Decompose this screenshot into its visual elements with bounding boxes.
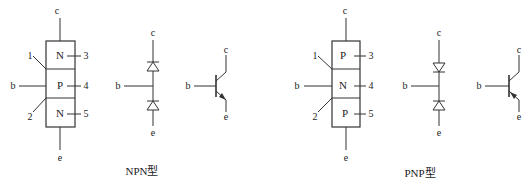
pnp-callout-3: 3 <box>369 50 374 61</box>
npn-callout-4: 4 <box>84 80 89 91</box>
pnp-callout-4: 4 <box>369 80 374 91</box>
npn-diode-emitter-label: e <box>151 127 156 138</box>
npn-caption: NPN型 <box>125 164 158 177</box>
npn-struct-emitter-label: e <box>58 152 63 163</box>
pnp-sym-collector-label: c <box>517 44 522 55</box>
pnp-layer-2: N <box>339 79 347 91</box>
pnp-callout-1: 1 <box>313 50 318 61</box>
npn-group: c N P N e b 1 2 3 4 5 c <box>11 5 229 177</box>
npn-struct-collector-label: c <box>55 5 60 16</box>
npn-callout-3: 3 <box>84 50 89 61</box>
pnp-layer-1: P <box>340 49 346 61</box>
diode-lower-icon <box>147 101 159 110</box>
pnp-callout-2: 2 <box>313 111 318 122</box>
pnp-callout-5: 5 <box>369 108 374 119</box>
pnp-transistor-symbol-icon: b c e <box>477 44 522 122</box>
pnp-layer-structure: c P N P e b 1 2 3 4 5 <box>295 5 374 163</box>
diode-upper-icon <box>433 63 445 72</box>
pnp-struct-base-label: b <box>295 80 300 91</box>
npn-callout-1: 1 <box>28 50 33 61</box>
pnp-group: c P N P e b 1 2 3 4 5 c <box>295 5 522 179</box>
npn-transistor-symbol-icon: b c e <box>186 44 229 122</box>
npn-layer-2: P <box>57 79 63 91</box>
pnp-layer-3: P <box>342 107 348 119</box>
npn-diode-collector-label: c <box>151 27 156 38</box>
npn-layer-structure: c N P N e b 1 2 3 4 5 <box>11 5 89 163</box>
npn-callout-2: 2 <box>28 111 33 122</box>
npn-struct-base-label: b <box>11 80 16 91</box>
pnp-struct-emitter-label: e <box>344 152 349 163</box>
pnp-diode-collector-label: c <box>437 27 442 38</box>
npn-diode-base-label: b <box>116 80 121 91</box>
diode-upper-icon <box>147 62 159 71</box>
pnp-diode-emitter-label: e <box>437 127 442 138</box>
npn-sym-collector-label: c <box>224 44 229 55</box>
pnp-diode-equivalent: c b e <box>403 27 446 138</box>
pnp-diode-base-label: b <box>403 80 408 91</box>
npn-layer-1: N <box>56 49 64 61</box>
npn-callout-5: 5 <box>84 108 89 119</box>
pnp-sym-base-label: b <box>477 80 482 91</box>
npn-sym-base-label: b <box>186 80 191 91</box>
pnp-caption: PNP型 <box>404 166 435 179</box>
pnp-struct-collector-label: c <box>343 5 348 16</box>
npn-diode-equivalent: c b e <box>116 27 160 138</box>
npn-layer-3: N <box>56 107 64 119</box>
npn-sym-emitter-label: e <box>224 111 229 122</box>
diode-lower-icon <box>433 101 445 110</box>
transistor-structure-diagram: c N P N e b 1 2 3 4 5 c <box>0 0 524 183</box>
pnp-sym-emitter-label: e <box>517 111 522 122</box>
